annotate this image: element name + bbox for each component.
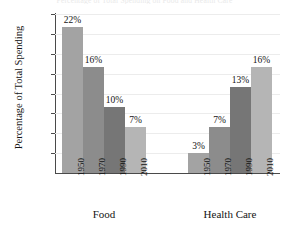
y-axis-tick — [51, 54, 55, 55]
x-axis-tick-label: 1990 — [245, 158, 254, 176]
bar-value-label: 7% — [129, 116, 142, 127]
plot-area: 3%6%9%12%15%18%21%24% 22%16%10%7%3%7%13%… — [55, 14, 280, 173]
group-label: Food — [42, 209, 166, 220]
bar-value-label: 7% — [213, 116, 226, 127]
x-axis-tick-label: 1990 — [119, 158, 128, 176]
bar: 22% — [62, 27, 83, 173]
x-axis-tick-label: 2010 — [140, 158, 149, 176]
bar-value-label: 16% — [253, 56, 270, 67]
gridline — [55, 34, 280, 35]
y-axis-tick — [51, 34, 55, 35]
bar-value-label: 10% — [106, 96, 123, 107]
y-axis-tick — [51, 94, 55, 95]
y-axis-tick — [51, 14, 55, 15]
y-axis-tick — [51, 133, 55, 134]
bar-value-label: 13% — [232, 76, 249, 87]
gridline — [55, 14, 280, 15]
x-axis-tick-label: 2010 — [266, 158, 275, 176]
bar-value-label: 22% — [64, 16, 81, 27]
x-axis-tick-label: 1970 — [224, 158, 233, 176]
y-axis-tick — [51, 74, 55, 75]
y-axis-title: Percentage of Total Spending — [13, 4, 24, 172]
group-label: Health Care — [168, 209, 289, 220]
y-axis-tick — [51, 113, 55, 114]
x-axis-tick-label: 1970 — [98, 158, 107, 176]
bar-chart: Percentage of Total Spending on Food and… — [0, 0, 289, 230]
y-axis-tick — [51, 153, 55, 154]
bar-value-label: 16% — [85, 56, 102, 67]
x-axis-tick-label: 1950 — [203, 158, 212, 176]
x-axis-tick-label: 1950 — [77, 158, 86, 176]
chart-title: Percentage of Total Spending on Food and… — [0, 0, 289, 4]
bar-value-label: 3% — [192, 142, 205, 153]
